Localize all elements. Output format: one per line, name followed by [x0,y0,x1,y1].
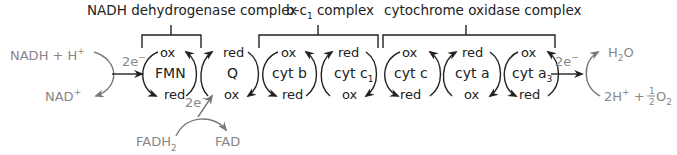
carrier-cyt-c: ox cyt c red [385,45,441,102]
nadh-label: NADH + H+ [10,46,85,63]
svg-text:FMN: FMN [155,65,186,81]
svg-text:ox: ox [402,45,418,60]
svg-text:cyt c1: cyt c1 [334,65,373,84]
oxygen-reduction-arrow [586,52,600,96]
svg-text:ox: ox [464,87,480,102]
svg-text:red: red [519,87,540,102]
bracket-bc1 [259,25,378,48]
svg-text:ox: ox [160,45,176,60]
fad-label: FAD [215,134,240,149]
carrier-cyt-a3: ox cyt a3 red [504,45,558,102]
svg-text:red: red [164,87,185,102]
svg-text:red: red [282,87,303,102]
electron-label-in: 2e− [122,52,146,69]
carrier-fmn: ox FMN red [143,45,197,102]
svg-text:red: red [462,45,483,60]
svg-text:1: 1 [649,86,655,96]
carrier-cyt-a: red cyt a ox [443,45,500,102]
svg-text:red: red [338,45,359,60]
carrier-q: red Q ox [201,45,259,102]
svg-text:ox: ox [281,45,297,60]
svg-text:cyt b: cyt b [272,65,307,81]
water-label: H2O [608,45,634,63]
electron-label-out: 2e− [555,52,579,69]
svg-text:ox: ox [224,87,240,102]
complex-title-bc1: b-c1 complex [286,2,374,21]
complex-title-nadh-dehydrogenase: NADH dehydrogenase complex [87,2,297,18]
carrier-cyt-b: ox cyt b red [263,45,317,102]
svg-text:Q: Q [227,65,238,81]
svg-text:ox: ox [342,87,358,102]
svg-text:2H+ +: 2H+ + [604,87,645,104]
nadh-oxidation-arrow [94,52,114,96]
oxygen-proton-label: 2H+ + 1 2 O2 [604,86,672,107]
svg-text:red: red [223,45,244,60]
svg-text:2: 2 [649,97,655,107]
complex-title-cytochrome-oxidase: cytochrome oxidase complex [384,2,581,18]
electron-transport-chain-diagram: NADH dehydrogenase complex b-c1 complex … [0,0,677,155]
svg-text:cyt a3: cyt a3 [512,65,552,84]
fadh2-label: FADH2 [136,134,177,153]
svg-text:cyt a: cyt a [455,65,490,81]
svg-text:O2: O2 [656,89,672,107]
carrier-cyt-c1: red cyt c1 ox [321,45,376,102]
svg-text:ox: ox [521,45,537,60]
electron-label-fadh2: 2e− [185,93,209,110]
svg-text:red: red [400,87,421,102]
svg-text:cyt c: cyt c [394,65,428,81]
nad-label: NAD+ [45,87,81,104]
